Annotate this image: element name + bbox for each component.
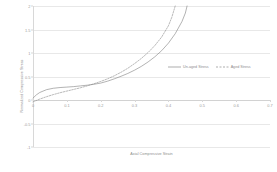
- series-line-un-aged-stress: [33, 6, 187, 98]
- legend-line-dashed-icon: [216, 65, 229, 69]
- series-line-aged-stress: [33, 6, 175, 102]
- legend-label-aged-stress: Aged Stress: [231, 65, 251, 69]
- plot-area: 21.510.50-0.5-1 00.10.20.30.40.50.60.7: [33, 6, 270, 147]
- x-axis-title: Axial Compressive Strain: [33, 152, 270, 156]
- chart-container: Normalized Compressive Stress 21.510.50-…: [0, 0, 277, 172]
- y-axis-title: Normalized Compressive Stress: [0, 0, 22, 172]
- x-tick-mark: [270, 100, 271, 102]
- legend-label-un-aged-stress: Un-aged Stress: [183, 65, 209, 69]
- legend-entry-un-aged-stress[interactable]: Un-aged Stress: [168, 65, 209, 69]
- series-lines: [33, 6, 270, 147]
- legend: Un-aged Stress Aged Stress: [168, 65, 251, 69]
- legend-entry-aged-stress[interactable]: Aged Stress: [216, 65, 251, 69]
- legend-line-solid-icon: [168, 65, 181, 69]
- gridline: [33, 147, 270, 148]
